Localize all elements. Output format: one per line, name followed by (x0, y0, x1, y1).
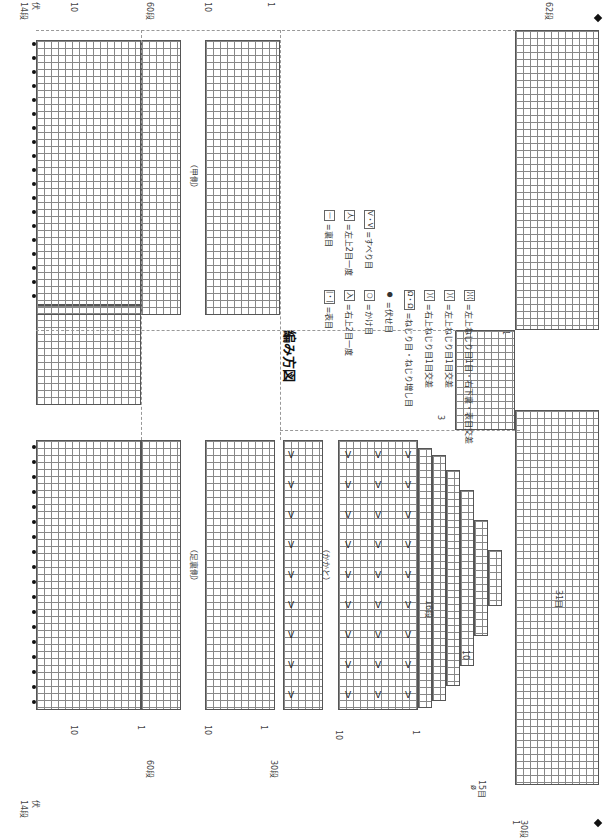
marker-st31: 31目 (554, 590, 565, 608)
legend-left-twist-purl-cross: ⟩⟨⟨=左上ねじり目1目・右下裏・表目交差 (464, 290, 475, 444)
toe-start-marker (594, 819, 602, 827)
marker-row1-heel: 1 (411, 730, 420, 735)
marker-row10-right: 10 (69, 2, 78, 12)
marker-row1-left: 1 (136, 725, 145, 730)
marker-row60-left: 60段 (145, 760, 156, 778)
legend-ssk: 入=右上2目一度 (344, 290, 355, 356)
heel-section-label: （かかと） (321, 545, 332, 585)
legend-purl: —=裏目 (324, 210, 335, 247)
marker-row14-right: 14段 (19, 2, 30, 20)
sole-section-label: （足裏側） (189, 545, 200, 585)
guide-line-top (36, 30, 516, 31)
marker-row30-toe: 30段 (519, 820, 530, 838)
legend-left-twist-cross: ⟩⟨=左上ねじり目1目交差 (444, 290, 455, 388)
guide-line-vert-2 (280, 30, 281, 440)
marker-row10-sole: 10 (203, 725, 212, 735)
instep-section-label: （甲側） (189, 160, 200, 192)
legend-twisted: Ω・Ω=ねじり目・ねじり増し目 (404, 290, 415, 407)
marker-row60-right: 60段 (145, 2, 156, 20)
instep-lower-grid (205, 40, 280, 315)
marker-row3-toe: 3 (436, 415, 445, 420)
legend-slip: V・V=すべり目 (364, 210, 375, 269)
legend-knit: |・|=表目 (324, 290, 335, 329)
sole-lower-grid (205, 440, 275, 710)
legend-right-twist-cross: ⟩⟨=右上ねじり目1目交差 (424, 290, 435, 388)
sole-chart (36, 440, 141, 710)
marker-row10-left: 10 (69, 725, 78, 735)
marker-row16-heel: 16段 (424, 600, 435, 618)
marker-row10-instep: 10 (203, 2, 212, 12)
toe-top-chart (515, 30, 599, 330)
marker-row1-instep: 1 (266, 2, 275, 7)
marker-bind-off-left: 伏 (31, 800, 42, 808)
legend-yarn-over: ○=かけ目 (364, 290, 375, 335)
instep-chart-ext (141, 40, 181, 315)
sole-chart-ext (141, 440, 181, 710)
legend-k2tog: 人=左上2目一度 (344, 210, 355, 276)
page-title: 編み方図 (281, 330, 300, 382)
marker-st15: 15目 (477, 780, 488, 798)
guide-line-heel (280, 430, 520, 431)
marker-row62: 62段 (544, 2, 555, 20)
guide-line-vert-1 (141, 30, 142, 440)
instep-chart (36, 40, 141, 315)
marker-row1-sole: 1 (259, 725, 268, 730)
marker-zero: ø (469, 785, 478, 790)
marker-bind-off-right: 伏 (31, 2, 42, 10)
marker-row30-sole: 30段 (269, 760, 280, 778)
marker-row14-left: 14段 (19, 800, 30, 818)
marker-row10-short: 10 (461, 650, 470, 660)
legend-bind-off: ●=伏せ目 (384, 290, 395, 333)
guide-line-mid (36, 330, 456, 331)
marker-row10-heel: 10 (334, 730, 343, 740)
toe-end-marker (594, 14, 602, 22)
